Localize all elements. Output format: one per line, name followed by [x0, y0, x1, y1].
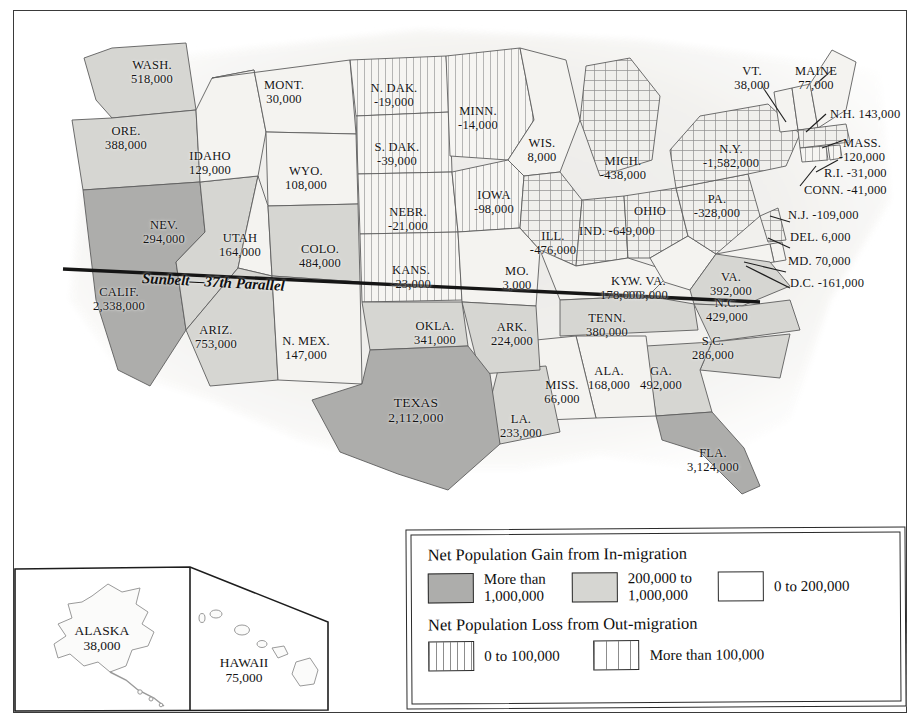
- label-pennsylvania: PA. -328,000: [694, 193, 740, 220]
- gain-low-swatch: [718, 571, 764, 601]
- label-colorado: COLO. 484,000: [299, 243, 341, 270]
- label-massachusetts: MASS. -120,000: [839, 137, 885, 164]
- gain-mid-swatch: [572, 572, 618, 602]
- label-mississippi: MISS. 66,000: [544, 379, 580, 406]
- legend-gain-row: More than 1,000,000 200,000 to 1,000,000: [428, 569, 886, 606]
- label-missouri: MO. 3,000: [502, 265, 531, 292]
- map-page: Sunbelt—37th Parallel WASH. 518,000 ORE.…: [0, 0, 924, 725]
- label-oregon: ORE. 388,000: [105, 125, 147, 152]
- label-delaware: DEL. 6,000: [790, 231, 851, 245]
- label-new-hampshire: N.H. 143,000: [830, 108, 900, 122]
- label-minnesota: MINN. -14,000: [458, 105, 498, 132]
- label-new-york: N.Y. -1,582,000: [703, 143, 759, 170]
- label-tennessee: TENN. 380,000: [586, 312, 628, 339]
- label-wisconsin: WIS. 8,000: [527, 137, 556, 164]
- label-montana: MONT. 30,000: [264, 79, 304, 106]
- label-rhode-island: R.I. -31,000: [824, 167, 887, 181]
- label-north-dakota: N. DAK. -19,000: [371, 82, 418, 109]
- label-texas: TEXAS 2,112,000: [388, 395, 443, 425]
- legend-loss-heading: Net Population Loss from Out-migration: [428, 613, 886, 636]
- inset-outline: [14, 562, 330, 713]
- label-alaska: ALASKA 38,000: [75, 623, 130, 653]
- state-tn: [560, 296, 698, 336]
- loss-low-swatch: [428, 641, 474, 671]
- label-hawaii: HAWAII 75,000: [220, 655, 268, 685]
- alaska-hawaii-inset: ALASKA 38,000 HAWAII 75,000: [14, 562, 330, 713]
- legend-item-gain-low: 0 to 200,000: [718, 571, 850, 602]
- label-kansas: KANS. -23,000: [391, 264, 431, 291]
- label-indiana: IND. -649,000: [579, 225, 655, 239]
- label-oklahoma: OKLA. 341,000: [414, 320, 456, 347]
- gain-high-swatch: [428, 573, 474, 603]
- label-maryland: MD. 70,000: [788, 255, 851, 269]
- legend-item-loss-low: 0 to 100,000: [428, 641, 560, 672]
- state-nm: [272, 276, 362, 384]
- gain-high-label: More than 1,000,000: [484, 571, 546, 605]
- legend-item-loss-high: More than 100,000: [594, 639, 765, 670]
- label-illinois: ILL. -476,000: [530, 230, 576, 257]
- label-south-carolina: S.C. 286,000: [692, 335, 734, 362]
- label-north-carolina: N.C. 429,000: [706, 297, 748, 324]
- label-michigan: MICH. -438,000: [600, 155, 646, 182]
- label-connecticut: CONN. -41,000: [804, 184, 887, 198]
- label-washington: WASH. 518,000: [131, 59, 173, 86]
- legend-item-gain-high: More than 1,000,000: [428, 571, 546, 606]
- label-nebraska: NEBR. -21,000: [388, 206, 428, 233]
- label-ohio: OHIO: [634, 205, 666, 219]
- gain-low-label: 0 to 200,000: [774, 577, 850, 594]
- label-district-of-columbia: D.C. -161,000: [790, 277, 864, 291]
- loss-low-label: 0 to 100,000: [484, 647, 560, 664]
- label-virginia: VA. 392,000: [710, 271, 752, 298]
- state-ct: [800, 146, 828, 162]
- label-alabama: ALA. 168,000: [588, 365, 630, 392]
- label-florida: FLA. 3,124,000: [687, 447, 739, 474]
- legend-loss-row: 0 to 100,000 More than 100,000: [428, 639, 886, 672]
- label-california: CALIF. 2,338,000: [93, 286, 145, 313]
- label-arkansas: ARK. 224,000: [491, 321, 533, 348]
- label-maine: MAINE 77,000: [795, 65, 837, 92]
- label-south-dakota: S. DAK. -39,000: [375, 141, 420, 168]
- gain-mid-label: 200,000 to 1,000,000: [628, 570, 692, 604]
- state-nj: [760, 208, 786, 242]
- label-kentucky: KY. 178,000: [600, 275, 642, 302]
- label-wyoming: WYO. 108,000: [285, 165, 327, 192]
- label-nevada: NEV. 294,000: [143, 219, 185, 246]
- label-vermont: VT. 38,000: [734, 65, 770, 92]
- label-iowa: IOWA -98,000: [474, 189, 514, 216]
- label-new-mexico: N. MEX. 147,000: [282, 335, 330, 362]
- label-arizona: ARIZ. 753,000: [195, 324, 237, 351]
- legend-gain-heading: Net Population Gain from In-migration: [428, 543, 886, 566]
- label-utah: UTAH 164,000: [219, 232, 261, 259]
- label-new-jersey: N.J. -109,000: [788, 209, 859, 223]
- label-georgia: GA. 492,000: [640, 365, 682, 392]
- loss-high-swatch: [594, 640, 640, 670]
- label-louisiana: LA. 233,000: [500, 413, 542, 440]
- legend-item-gain-mid: 200,000 to 1,000,000: [572, 570, 692, 605]
- map-legend: Net Population Gain from In-migration Mo…: [405, 526, 906, 709]
- loss-high-label: More than 100,000: [650, 646, 765, 664]
- legend-inner-frame: Net Population Gain from In-migration Mo…: [410, 532, 901, 705]
- label-idaho: IDAHO 129,000: [189, 150, 231, 177]
